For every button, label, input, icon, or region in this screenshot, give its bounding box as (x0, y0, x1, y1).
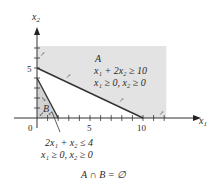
y-tick-label-5: 5 (27, 64, 32, 74)
x-tick-label-5: 5 (87, 123, 92, 133)
region-a-constraint-2: x₁ ≥ 0, x₂ ≥ 0 (93, 77, 146, 88)
direction-arrow-icon: ↗ (159, 110, 164, 116)
direction-arrow-icon: ↗ (119, 97, 124, 103)
region-b-label: B (43, 103, 49, 114)
intersection-statement: A ∩ B = ∅ (80, 169, 127, 180)
region-b-constraint-1: 2x₁ + x₂ ≤ 4 (45, 137, 93, 148)
direction-arrow-icon: ↗ (40, 51, 45, 57)
x-axis-label: x1 (198, 115, 207, 128)
region-a-label: A (94, 53, 102, 64)
x-tick-label-0: 0 (28, 123, 33, 133)
direction-arrow-icon: ↘ (41, 96, 46, 102)
direction-arrow-icon: ↗ (66, 73, 71, 79)
y-axis-label: x2 (31, 11, 40, 24)
region-b-constraint-2: x₁ ≥ 0, x₂ ≥ 0 (40, 149, 93, 160)
region-a-constraint-1: x₁ + 2x₂ ≥ 10 (93, 65, 147, 76)
x-tick-label-10: 10 (137, 123, 147, 133)
y-axis-arrow-icon (34, 27, 40, 35)
diagram-canvas: ↗ ↗ ↗ ↗ ↘ ↙ ↙ x2 x1 0 5 10 5 A x₁ + 2x₂ … (0, 0, 214, 184)
